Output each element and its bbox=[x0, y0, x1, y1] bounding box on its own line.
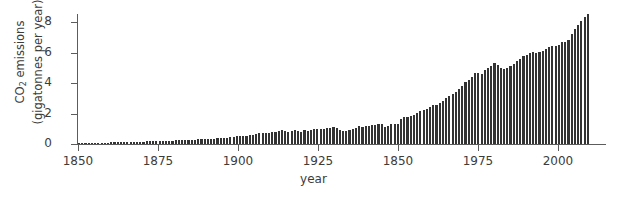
bar bbox=[574, 29, 576, 144]
bar bbox=[423, 110, 425, 144]
bar bbox=[461, 86, 463, 144]
bar bbox=[165, 141, 167, 144]
bar bbox=[419, 111, 421, 144]
bar bbox=[245, 136, 247, 144]
x-tick-label-1875: 1875 bbox=[128, 154, 188, 168]
bar bbox=[358, 126, 360, 144]
y-tick-label-6: 6 bbox=[34, 45, 52, 59]
y-tick-8 bbox=[71, 22, 78, 23]
bar bbox=[561, 42, 563, 144]
bar bbox=[377, 124, 379, 144]
bar bbox=[493, 63, 495, 144]
x-tick-1850 bbox=[78, 144, 79, 151]
bar bbox=[271, 132, 273, 144]
bar bbox=[291, 131, 293, 144]
x-tick-2000 bbox=[558, 144, 559, 151]
bar bbox=[233, 137, 235, 144]
bar bbox=[348, 130, 350, 144]
bar bbox=[551, 46, 553, 144]
bar bbox=[410, 116, 412, 144]
bar bbox=[487, 68, 489, 144]
bar bbox=[229, 137, 231, 144]
bar bbox=[294, 130, 296, 144]
bar bbox=[435, 105, 437, 144]
bar bbox=[130, 142, 132, 144]
bar bbox=[91, 143, 93, 144]
bar bbox=[191, 140, 193, 144]
bar bbox=[548, 47, 550, 144]
bar bbox=[529, 53, 531, 144]
bar bbox=[332, 127, 334, 144]
bar bbox=[136, 142, 138, 144]
bar bbox=[326, 128, 328, 144]
bar bbox=[426, 109, 428, 144]
bar bbox=[220, 138, 222, 144]
bar bbox=[526, 55, 528, 144]
x-tick-1950 bbox=[398, 144, 399, 151]
bar bbox=[584, 17, 586, 144]
bar bbox=[297, 131, 299, 144]
x-axis-title: year bbox=[0, 172, 627, 186]
bar bbox=[81, 143, 83, 144]
x-tick-1925 bbox=[318, 144, 319, 151]
bar bbox=[207, 139, 209, 144]
bar bbox=[162, 141, 164, 144]
x-tick-1975 bbox=[478, 144, 479, 151]
bar bbox=[455, 92, 457, 144]
chart-figure: CO2 emissions (gigatonnes per year) 0 2 … bbox=[0, 0, 627, 198]
y-tick-label-4: 4 bbox=[34, 75, 52, 89]
x-axis-line bbox=[77, 144, 606, 145]
bar bbox=[387, 126, 389, 144]
bar bbox=[97, 143, 99, 144]
bar bbox=[555, 46, 557, 144]
bar bbox=[329, 128, 331, 144]
bar bbox=[397, 124, 399, 144]
bar bbox=[310, 130, 312, 144]
bar bbox=[88, 143, 90, 144]
bar bbox=[413, 115, 415, 144]
bar bbox=[336, 128, 338, 144]
bar bbox=[171, 141, 173, 144]
bar bbox=[223, 138, 225, 144]
bar bbox=[471, 77, 473, 144]
x-tick-1900 bbox=[238, 144, 239, 151]
y-tick-6 bbox=[71, 53, 78, 54]
x-tick-label-1950: 1850 bbox=[368, 154, 428, 168]
y-tick-label-8: 8 bbox=[34, 14, 52, 28]
bar bbox=[477, 73, 479, 144]
bar bbox=[268, 133, 270, 144]
bar bbox=[538, 52, 540, 144]
bar bbox=[342, 131, 344, 144]
bar bbox=[210, 139, 212, 144]
x-tick-1875 bbox=[158, 144, 159, 151]
bar bbox=[287, 132, 289, 145]
bar bbox=[274, 132, 276, 144]
x-tick-label-1850: 1850 bbox=[48, 154, 108, 168]
bar bbox=[284, 131, 286, 144]
y-tick-label-0: 0 bbox=[34, 136, 52, 150]
y-tick-4 bbox=[71, 83, 78, 84]
bar bbox=[474, 73, 476, 144]
bar bbox=[403, 117, 405, 144]
bar bbox=[484, 70, 486, 144]
bar bbox=[464, 82, 466, 144]
bar bbox=[506, 68, 508, 144]
bar bbox=[197, 139, 199, 144]
y-axis-ticks: 0 2 4 6 8 bbox=[0, 0, 70, 198]
bar bbox=[509, 66, 511, 144]
bar bbox=[468, 80, 470, 144]
bar bbox=[300, 132, 302, 144]
bar bbox=[101, 143, 103, 144]
bar bbox=[149, 141, 151, 144]
bar bbox=[139, 142, 141, 144]
bar bbox=[394, 124, 396, 144]
bar bbox=[532, 52, 534, 144]
bar bbox=[278, 131, 280, 144]
bar bbox=[445, 98, 447, 144]
bar bbox=[374, 125, 376, 144]
bar bbox=[500, 68, 502, 144]
bar bbox=[519, 59, 521, 144]
bar bbox=[204, 139, 206, 144]
bar bbox=[481, 74, 483, 144]
bar bbox=[213, 139, 215, 144]
